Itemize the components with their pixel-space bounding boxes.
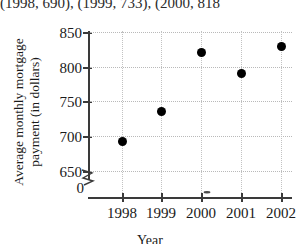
gridline-850 — [90, 32, 292, 34]
data-point-1999[interactable] — [157, 107, 166, 116]
x-tick-mark-2002 — [281, 193, 283, 202]
gridline-2001 — [241, 31, 243, 197]
data-point-1998[interactable] — [118, 137, 127, 146]
y-tick-label-700: 700 — [40, 130, 82, 145]
y-tick-label-750: 750 — [40, 95, 82, 110]
y-tick-label-650: 650 — [40, 165, 82, 180]
x-axis-title: Year — [0, 233, 300, 244]
y-axis-zero-label: 0 — [62, 181, 84, 196]
data-point-2001[interactable] — [237, 69, 246, 78]
x-tick-label-1998: 1998 — [100, 205, 144, 221]
x-tick-label-1999: 1999 — [139, 205, 183, 221]
y-axis-line — [88, 31, 90, 180]
x-tick-mark-2000 — [201, 193, 203, 202]
gridline-800 — [90, 67, 292, 69]
coordinate-caption: (1998, 690), (1999, 733), (2000, 818 — [0, 0, 300, 11]
gridline-2002 — [281, 31, 283, 197]
data-point-2002[interactable] — [277, 42, 286, 51]
gridline-650 — [90, 171, 292, 173]
y-axis-title-line-1: Average monthly mortgage — [11, 12, 27, 212]
y-tick-label-850: 850 — [40, 26, 82, 41]
y-axis-title-line-2: payment (in dollars) — [27, 12, 43, 212]
gridline-1998 — [122, 31, 124, 197]
x-tick-label-2000: 2000 — [179, 205, 223, 221]
x-tick-label-2002: 2002 — [259, 205, 300, 221]
x-tick-label-2001: 2001 — [219, 205, 263, 221]
y-axis-title: Average monthly mortgage payment (in dol… — [11, 12, 43, 212]
data-point-2000[interactable] — [197, 48, 206, 57]
x-axis-line — [88, 197, 292, 199]
x-tick-mark-2001 — [241, 193, 243, 202]
x-tick-mark-1999 — [161, 193, 163, 202]
y-tick-label-800: 800 — [40, 61, 82, 76]
stray-mark-icon — [203, 190, 212, 194]
x-tick-mark-1998 — [122, 193, 124, 202]
gridline-750 — [90, 101, 292, 103]
